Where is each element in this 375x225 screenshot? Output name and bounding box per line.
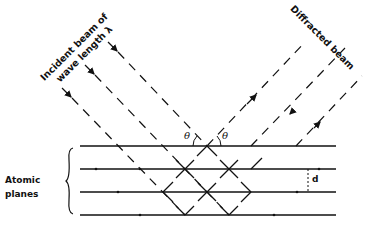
internal-reflections <box>163 146 262 215</box>
brace <box>66 148 73 214</box>
theta-diffracted-label: θ <box>222 130 228 141</box>
theta-arcs <box>193 136 221 146</box>
atomic-planes <box>80 146 336 215</box>
incident-ray-1 <box>118 52 207 146</box>
diffracted-arrows <box>247 95 320 128</box>
atomic-planes-label: Atomic planes <box>5 173 40 201</box>
theta-incident-label: θ <box>184 130 190 141</box>
spacing-d-label: d <box>312 174 318 184</box>
atomic-label-line1: Atomic <box>5 173 40 187</box>
atomic-label-line2: planes <box>5 187 40 201</box>
diffracted-ray-3 <box>296 76 362 146</box>
diffracted-ray-2 <box>251 48 345 146</box>
